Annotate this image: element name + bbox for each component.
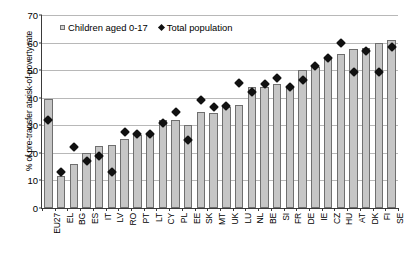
bar [324, 59, 332, 208]
gridline [42, 15, 398, 16]
bar [286, 87, 294, 208]
x-axis-label-lu: LU [243, 213, 253, 224]
bar [235, 105, 243, 208]
legend-item-1: Total population [159, 22, 233, 33]
y-tick-label: 20 [27, 147, 38, 158]
bar [146, 134, 154, 208]
x-tick-mark [156, 208, 157, 211]
x-tick-mark [67, 208, 68, 211]
legend-label: Total population [167, 22, 233, 33]
y-tick-mark [39, 97, 42, 98]
x-axis-label-dk: DK [370, 213, 380, 225]
bar [209, 113, 217, 208]
x-tick-mark [195, 208, 196, 211]
x-axis-label-el: EL [65, 213, 75, 223]
y-tick-mark [39, 152, 42, 153]
y-tick-label: 50 [27, 65, 38, 76]
x-tick-mark [334, 208, 335, 211]
x-axis-label-ro: RO [128, 213, 138, 226]
y-tick-label: 70 [27, 10, 38, 21]
data-marker [120, 127, 130, 137]
x-axis-label-uk: UK [230, 213, 240, 225]
x-tick-mark [207, 208, 208, 211]
x-axis-label-fi: FI [382, 213, 392, 220]
x-tick-mark [131, 208, 132, 211]
x-tick-mark [93, 208, 94, 211]
y-tick-label: 40 [27, 92, 38, 103]
y-tick-label: 0 [33, 203, 38, 214]
bar [337, 54, 345, 208]
legend-item-0: Children aged 0-17 [60, 22, 148, 33]
bar [133, 135, 141, 208]
x-axis-label-at: AT [357, 213, 367, 223]
y-tick-mark [39, 125, 42, 126]
bar [57, 176, 65, 208]
x-tick-mark [271, 208, 272, 211]
x-axis-label-hu: HU [344, 213, 354, 225]
x-axis-label-pt: PT [141, 213, 151, 224]
x-axis-label-fr: FR [293, 213, 303, 224]
bar [248, 87, 256, 208]
x-tick-mark [182, 208, 183, 211]
bar [362, 48, 370, 208]
data-marker [336, 38, 346, 48]
x-tick-mark [284, 208, 285, 211]
x-tick-mark [144, 208, 145, 211]
x-axis-label-de: DE [306, 213, 316, 225]
x-tick-mark [347, 208, 348, 211]
bar [387, 40, 395, 208]
bar [120, 139, 128, 208]
x-tick-mark [80, 208, 81, 211]
x-axis-label-lt: LT [154, 213, 164, 222]
y-tick-mark [39, 70, 42, 71]
x-tick-mark [106, 208, 107, 211]
x-tick-mark [373, 208, 374, 211]
legend-square-icon [60, 25, 65, 30]
x-tick-mark [398, 208, 399, 211]
x-axis-label-lv: LV [115, 213, 125, 222]
x-tick-mark [55, 208, 56, 211]
bar [171, 120, 179, 208]
x-axis-label-cz: CZ [332, 213, 342, 224]
x-tick-mark [309, 208, 310, 211]
x-tick-mark [220, 208, 221, 211]
bar [70, 164, 78, 208]
data-marker [272, 73, 282, 83]
y-tick-mark [39, 15, 42, 16]
x-axis-label-bg: BG [77, 213, 87, 225]
x-axis-label-it: IT [103, 213, 113, 220]
x-tick-mark [169, 208, 170, 211]
x-axis-label-sk: SK [204, 213, 214, 224]
bar [260, 87, 268, 208]
data-marker [234, 78, 244, 88]
x-tick-mark [296, 208, 297, 211]
data-marker [209, 102, 219, 112]
y-tick-label: 60 [27, 37, 38, 48]
chart-legend: Children aged 0-17Total population [58, 22, 234, 33]
x-tick-mark [42, 208, 43, 211]
x-tick-mark [322, 208, 323, 211]
x-axis-label-eu27: EU27 [52, 213, 62, 234]
x-tick-mark [360, 208, 361, 211]
x-axis-label-mt: MT [217, 213, 227, 225]
x-axis-label-es: ES [90, 213, 100, 224]
y-tick-label: 10 [27, 175, 38, 186]
x-axis-label-pl: PL [179, 213, 189, 223]
legend-label: Children aged 0-17 [68, 22, 148, 33]
x-axis-label-se: SE [395, 213, 405, 224]
x-tick-mark [385, 208, 386, 211]
x-axis-label-cy: CY [166, 213, 176, 225]
x-tick-mark [233, 208, 234, 211]
bar [311, 67, 319, 208]
x-axis-label-nl: NL [255, 213, 265, 224]
bar [273, 84, 281, 208]
y-tick-label: 30 [27, 120, 38, 131]
x-axis-label-be: BE [268, 213, 278, 224]
x-axis-label-ee: EE [192, 213, 202, 224]
bar [159, 120, 167, 208]
bar [197, 112, 205, 209]
x-tick-mark [245, 208, 246, 211]
bar [222, 107, 230, 208]
bar [298, 70, 306, 208]
